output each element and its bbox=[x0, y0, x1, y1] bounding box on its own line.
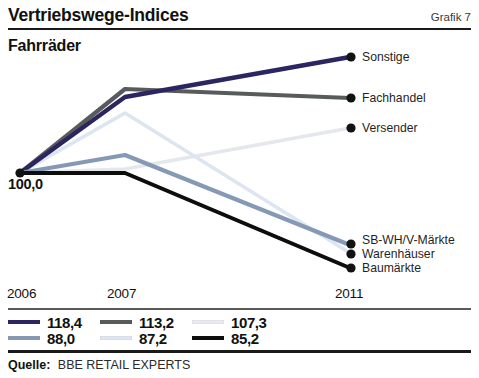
x-axis: 2006 2007 2011 bbox=[0, 286, 479, 308]
footer-divider bbox=[8, 350, 471, 353]
origin-value-label: 100,0 bbox=[8, 176, 43, 192]
legend-value: 85,2 bbox=[231, 330, 259, 347]
data-point-fachhandel-2011 bbox=[346, 93, 355, 102]
series-label-fachhandel: Fachhandel bbox=[362, 91, 426, 105]
x-axis-tick-2006: 2006 bbox=[7, 286, 36, 301]
legend-value: 107,3 bbox=[231, 314, 267, 331]
legend-swatch-baumaerkte bbox=[192, 336, 224, 341]
series-label-group-bottom: SB-WH/V-Märkte Warenhäuser Baumärkte bbox=[362, 233, 455, 275]
legend-value: 118,4 bbox=[47, 314, 82, 331]
source-note: Quelle: BBE RETAIL EXPERTS bbox=[8, 358, 190, 372]
data-point-baumaerkte-2011 bbox=[346, 263, 355, 272]
chart-legend: 118,4 113,2 107,3 88,0 87,2 85,2 bbox=[8, 314, 328, 346]
source-label: Quelle: bbox=[8, 358, 50, 372]
x-axis-tick-2007: 2007 bbox=[107, 286, 136, 301]
legend-swatch-fachhandel bbox=[100, 320, 132, 325]
series-label-warenhaeuser: Warenhäuser bbox=[362, 247, 455, 261]
series-label-versender: Versender bbox=[362, 121, 418, 135]
series-label-sbwh: SB-WH/V-Märkte bbox=[362, 233, 455, 247]
legend-value: 87,2 bbox=[139, 330, 167, 347]
axis-divider bbox=[8, 308, 471, 310]
legend-swatch-warenhaeuser bbox=[100, 336, 132, 341]
legend-item: 118,4 bbox=[8, 314, 100, 331]
x-axis-tick-2011: 2011 bbox=[335, 286, 363, 301]
source-text: BBE RETAIL EXPERTS bbox=[58, 358, 190, 372]
chart-page: Vertriebswege-Indices Grafik 7 Fahrräder bbox=[0, 0, 479, 378]
legend-item: 85,2 bbox=[192, 330, 284, 347]
legend-swatch-sonstige bbox=[8, 320, 40, 325]
data-point-sonstige-2011 bbox=[346, 52, 355, 61]
series-label-sonstige: Sonstige bbox=[362, 50, 409, 64]
series-line-fachhandel bbox=[20, 89, 350, 173]
legend-value: 88,0 bbox=[47, 330, 75, 347]
legend-item: 88,0 bbox=[8, 330, 100, 347]
legend-item: 113,2 bbox=[100, 314, 192, 331]
legend-item: 107,3 bbox=[192, 314, 284, 331]
series-label-baumaerkte: Baumärkte bbox=[362, 261, 455, 275]
legend-swatch-sbwh bbox=[8, 336, 40, 341]
legend-value: 113,2 bbox=[139, 314, 174, 331]
legend-row: 118,4 113,2 107,3 bbox=[8, 314, 328, 330]
legend-swatch-versender bbox=[192, 320, 224, 325]
data-point-versender-2011 bbox=[346, 123, 355, 132]
series-line-sonstige bbox=[20, 57, 350, 173]
data-point-warenhaeuser-2011 bbox=[346, 249, 355, 258]
data-point-sbwh-2011 bbox=[346, 239, 355, 248]
legend-item: 87,2 bbox=[100, 330, 192, 347]
legend-row: 88,0 87,2 85,2 bbox=[8, 330, 328, 346]
